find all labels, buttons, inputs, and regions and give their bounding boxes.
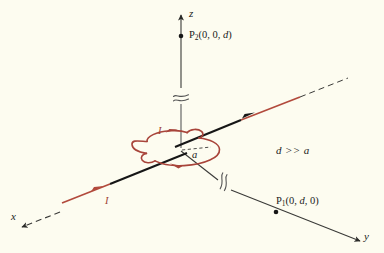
loop-current-label: I (158, 126, 162, 137)
condition-label: d >> a (276, 145, 310, 156)
point-label-p1: P1(0, d, 0) (276, 196, 319, 207)
wire-current-label: I (105, 196, 109, 207)
physics-figure: z x y P2(0, 0, d) P1(0, d, 0) d >> a I I… (0, 0, 384, 253)
radius-label: a (192, 150, 197, 161)
axis-label-z: z (189, 8, 193, 19)
point-p1-marker (274, 210, 279, 215)
point-p2-marker (179, 34, 184, 39)
axis-label-y: y (364, 231, 369, 242)
point-label-p2: P2(0, 0, d) (189, 30, 232, 41)
axis-label-x: x (11, 211, 16, 222)
